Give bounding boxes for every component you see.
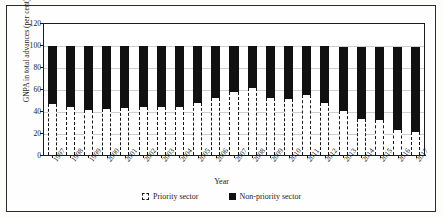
bar-segment-non-priority-sector [102,46,111,109]
bar-segment-priority-sector [357,119,366,155]
bar-segment-priority-sector [193,103,202,155]
bar-2010 [284,46,293,155]
bar-segment-priority-sector [339,111,348,155]
bar-segment-priority-sector [84,110,93,155]
bar-segment-non-priority-sector [375,47,384,120]
legend-item-priority-sector: Priority sector [142,192,199,201]
x-axis-label: Year [0,177,443,186]
bar-segment-priority-sector [211,98,220,155]
bar-segment-non-priority-sector [139,46,148,107]
bar-2017 [411,47,420,155]
bar-2001 [120,46,129,155]
bar-2016 [393,47,402,155]
bar-1997 [48,46,57,155]
bar-segment-priority-sector [139,107,148,155]
bar-segment-non-priority-sector [84,46,93,110]
bar-segment-non-priority-sector [66,46,75,107]
bar-segment-priority-sector [66,107,75,155]
bar-2003 [157,46,166,155]
bar-segment-priority-sector [248,88,257,155]
bar-2004 [175,46,184,155]
bar-segment-non-priority-sector [357,47,366,119]
bar-segment-non-priority-sector [193,46,202,103]
bar-segment-non-priority-sector [284,46,293,99]
bar-segment-non-priority-sector [302,46,311,94]
bar-2015 [375,47,384,155]
bar-1999 [84,46,93,155]
bar-segment-non-priority-sector [320,46,329,103]
bar-segment-priority-sector [302,95,311,156]
bar-segment-non-priority-sector [157,46,166,107]
bar-series-group [43,23,425,155]
bar-2014 [357,47,366,155]
y-axis-label: GNPA in total advances (per cent) [22,0,31,126]
bar-segment-non-priority-sector [211,46,220,98]
bar-segment-non-priority-sector [175,46,184,107]
bar-segment-non-priority-sector [229,46,238,92]
bar-2011 [302,46,311,155]
priority-sector-swatch-icon [142,193,149,200]
bar-segment-priority-sector [48,104,57,155]
bar-2007 [229,46,238,155]
bar-2012 [320,46,329,155]
bar-1998 [66,46,75,155]
bar-segment-priority-sector [320,103,329,155]
legend-label: Non-priority sector [240,192,302,201]
bar-2009 [266,46,275,155]
bar-2006 [211,46,220,155]
legend-item-non-priority-sector: Non-priority sector [229,192,302,201]
bar-segment-priority-sector [102,109,111,155]
bar-segment-priority-sector [157,107,166,155]
bar-segment-non-priority-sector [266,46,275,98]
bar-segment-priority-sector [175,107,184,155]
bar-2000 [102,46,111,155]
bar-segment-non-priority-sector [411,47,420,132]
legend: Priority sectorNon-priority sector [0,192,443,201]
bar-segment-non-priority-sector [393,47,402,130]
legend-label: Priority sector [153,192,199,201]
bar-2002 [139,46,148,155]
non-priority-sector-swatch-icon [229,193,236,200]
bar-segment-non-priority-sector [48,46,57,104]
bar-segment-priority-sector [375,120,384,155]
figure-root: 020406080100120 GNPA in total advances (… [0,0,443,218]
bar-2005 [193,46,202,155]
bar-segment-non-priority-sector [120,46,129,108]
bar-segment-priority-sector [229,92,238,155]
bar-segment-priority-sector [284,99,293,155]
bar-segment-priority-sector [266,98,275,155]
bar-segment-non-priority-sector [248,46,257,88]
bar-segment-non-priority-sector [339,47,348,111]
bar-2013 [339,47,348,155]
bar-segment-priority-sector [120,108,129,155]
bar-2008 [248,46,257,155]
